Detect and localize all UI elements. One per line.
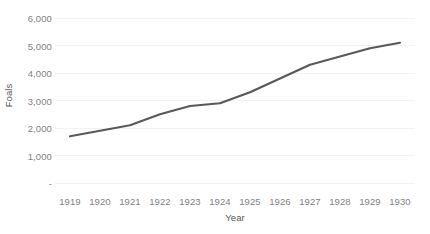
x-axis-tick-label: 1926: [265, 196, 295, 210]
x-axis-tick-label: 1928: [325, 196, 355, 210]
x-axis-tick-label: 1923: [175, 196, 205, 210]
x-axis-tick-label: 1924: [205, 196, 235, 210]
x-axis-title: Year: [55, 212, 415, 223]
x-axis-tick-label: 1921: [115, 196, 145, 210]
series-line-foals: [70, 43, 400, 137]
x-axis-tick-label: 1920: [85, 196, 115, 210]
x-axis-tick-labels: 1919192019211922192319241925192619271928…: [55, 196, 415, 210]
plot-area: [55, 18, 415, 183]
y-axis-tick-label: 3,000: [4, 95, 52, 106]
x-axis-tick-label: 1919: [55, 196, 85, 210]
x-axis-tick-label: 1930: [385, 196, 415, 210]
plot-svg: [55, 18, 415, 183]
x-axis-tick-label: 1929: [355, 196, 385, 210]
y-axis-tick-labels: 6,0005,0004,0003,0002,0001,000-: [0, 0, 52, 234]
y-axis-tick-label: 2,000: [4, 123, 52, 134]
line-chart: Foals 6,0005,0004,0003,0002,0001,000- 19…: [0, 0, 430, 234]
y-axis-tick-label: 1,000: [4, 150, 52, 161]
x-axis-tick-label: 1925: [235, 196, 265, 210]
x-axis-tick-label: 1927: [295, 196, 325, 210]
y-axis-tick-label: 4,000: [4, 68, 52, 79]
x-axis-tick-label: 1922: [145, 196, 175, 210]
y-axis-tick-label: 5,000: [4, 40, 52, 51]
gridlines: [55, 18, 415, 183]
y-axis-tick-label: 6,000: [4, 13, 52, 24]
y-axis-tick-label: -: [4, 178, 52, 189]
